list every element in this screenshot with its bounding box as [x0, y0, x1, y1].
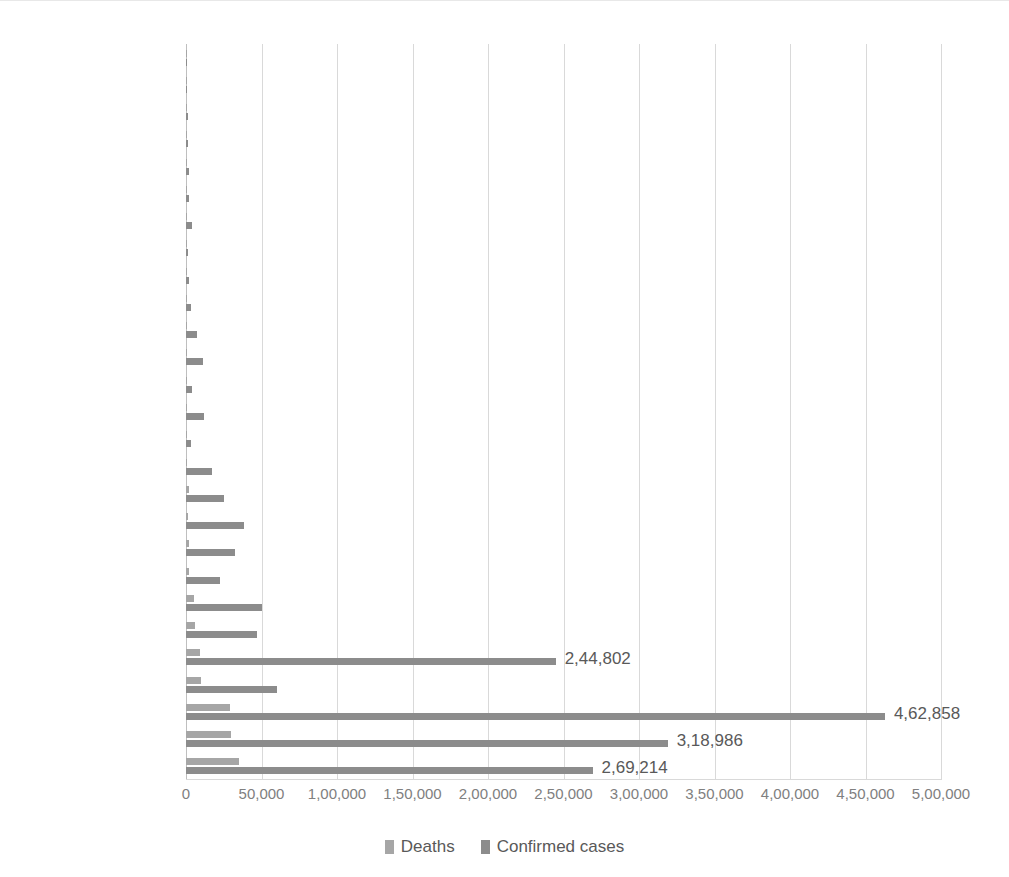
legend-label: Confirmed cases: [497, 838, 625, 855]
bar-confirmed-cases: [186, 304, 191, 311]
bar-deaths: [186, 704, 230, 711]
bar-confirmed-cases: [186, 686, 277, 693]
bar-confirmed-cases: [186, 386, 192, 393]
bar-row: Sweden: [186, 589, 941, 616]
x-axis-tick-label: 4,00,000: [761, 786, 819, 801]
x-axis-tick-label: 3,50,000: [685, 786, 743, 801]
bar-rows: MaltaCyprusSlovakiaLatviaEstoniaLithuani…: [186, 44, 941, 780]
bar-deaths: [186, 131, 187, 138]
bar-chart: MaltaCyprusSlovakiaLatviaEstoniaLithuani…: [0, 0, 1009, 877]
bar-confirmed-cases: [186, 495, 224, 502]
bar-deaths: [186, 677, 201, 684]
bar-confirmed-cases: [186, 767, 593, 774]
bar-confirmed-cases: [186, 195, 189, 202]
bar-deaths: [186, 568, 189, 575]
bar-value-label: 3,18,986: [677, 732, 743, 749]
bar-row: Romania: [186, 562, 941, 589]
x-axis-ticks: 050,0001,00,0001,50,0002,00,0002,50,0003…: [186, 786, 941, 812]
bar-deaths: [186, 295, 187, 302]
bar-row: Portugal: [186, 507, 941, 534]
bar-deaths: [186, 377, 187, 384]
bar-deaths: [186, 431, 187, 438]
bar-row: Austria: [186, 453, 941, 480]
bar-row: Czech Republic: [186, 344, 941, 371]
bar-row: Germany2,44,802: [186, 644, 941, 671]
bar-deaths: [186, 731, 231, 738]
x-axis-tick-label: 5,00,000: [912, 786, 970, 801]
bar-confirmed-cases: [186, 168, 189, 175]
bar-row: Slovakia: [186, 99, 941, 126]
bar-deaths: [186, 513, 188, 520]
bar-row: Poland: [186, 535, 941, 562]
bar-row: France3,18,986: [186, 725, 941, 752]
x-axis-tick-label: 3,00,000: [610, 786, 668, 801]
bar-confirmed-cases: [186, 631, 257, 638]
bar-row: Luxembourg: [186, 208, 941, 235]
bar-deaths: [186, 104, 187, 111]
bar-confirmed-cases: [186, 658, 556, 665]
bar-deaths: [186, 649, 200, 656]
bar-confirmed-cases: [186, 577, 220, 584]
legend-item[interactable]: Confirmed cases: [481, 838, 625, 855]
bar-confirmed-cases: [186, 86, 187, 93]
x-axis-tick-label: 1,50,000: [383, 786, 441, 801]
bar-deaths: [186, 268, 187, 275]
bar-row: Estonia: [186, 153, 941, 180]
bar-deaths: [186, 486, 189, 493]
bar-deaths: [186, 77, 187, 84]
bar-confirmed-cases: [186, 713, 885, 720]
bar-deaths: [186, 322, 187, 329]
bar-deaths: [186, 459, 187, 466]
bar-row: Cyprus: [186, 71, 941, 98]
bar-deaths: [186, 159, 187, 166]
bar-confirmed-cases: [186, 604, 262, 611]
bar-deaths: [186, 595, 194, 602]
bar-confirmed-cases: [186, 468, 212, 475]
bar-deaths: [186, 540, 189, 547]
chart-legend: DeathsConfirmed cases: [0, 838, 1009, 855]
bar-row: Spain4,62,858: [186, 698, 941, 725]
bar-deaths: [186, 240, 187, 247]
bar-deaths: [186, 349, 187, 356]
bar-confirmed-cases: [186, 222, 192, 229]
bar-confirmed-cases: [186, 440, 191, 447]
bar-value-label: 4,62,858: [894, 705, 960, 722]
bar-confirmed-cases: [186, 549, 235, 556]
bar-deaths: [186, 50, 187, 57]
legend-swatch: [385, 840, 394, 854]
bar-confirmed-cases: [186, 249, 188, 256]
bar-row: Italy2,69,214: [186, 753, 941, 780]
bar-row: Croatia: [186, 262, 941, 289]
gridline: [941, 44, 942, 780]
bar-value-label: 2,69,214: [602, 759, 668, 776]
x-axis-tick-label: 4,50,000: [836, 786, 894, 801]
top-divider: [0, 0, 1009, 1]
bar-confirmed-cases: [186, 113, 188, 120]
x-axis-tick-label: 1,00,000: [308, 786, 366, 801]
bar-row: Bulgaria: [186, 426, 941, 453]
bar-confirmed-cases: [186, 59, 187, 66]
x-axis-tick-label: 50,000: [239, 786, 285, 801]
bar-row: Belgium: [186, 671, 941, 698]
bar-confirmed-cases: [186, 140, 188, 147]
bar-row: Greece: [186, 289, 941, 316]
legend-item[interactable]: Deaths: [385, 838, 455, 855]
bar-deaths: [186, 404, 187, 411]
bar-row: Lithuania: [186, 180, 941, 207]
bar-confirmed-cases: [186, 413, 204, 420]
bar-row: Latvia: [186, 126, 941, 153]
plot-area: MaltaCyprusSlovakiaLatviaEstoniaLithuani…: [186, 44, 941, 780]
bar-row: Denmark: [186, 398, 941, 425]
x-axis-tick-label: 2,00,000: [459, 786, 517, 801]
legend-label: Deaths: [401, 838, 455, 855]
x-axis-tick-label: 2,50,000: [534, 786, 592, 801]
bar-row: Ireland: [186, 480, 941, 507]
bar-confirmed-cases: [186, 331, 197, 338]
bar-row: Malta: [186, 44, 941, 71]
x-axis-tick-label: 0: [182, 786, 190, 801]
bar-row: Slovenia: [186, 235, 941, 262]
bar-deaths: [186, 186, 187, 193]
bar-row: Finland: [186, 317, 941, 344]
legend-swatch: [481, 840, 490, 854]
bar-deaths: [186, 213, 187, 220]
